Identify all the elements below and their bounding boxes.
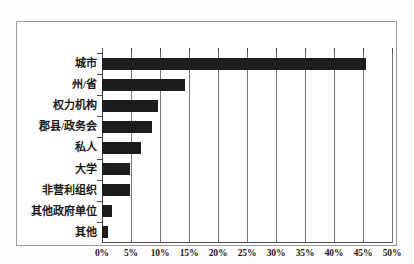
bar-row: 非营利组织 bbox=[102, 180, 392, 201]
category-label: 大学 bbox=[75, 160, 97, 179]
category-label: 非营利组织 bbox=[42, 181, 97, 200]
chart-frame: 城市州/省权力机构郡县/政务会私人大学非营利组织其他政府单位其他 0%5%10%… bbox=[16, 21, 397, 246]
bar bbox=[102, 163, 130, 175]
x-tick-label: 5% bbox=[124, 248, 138, 258]
bar-row: 大学 bbox=[102, 159, 392, 180]
bar bbox=[102, 58, 366, 70]
x-tick-label: 25% bbox=[238, 248, 256, 258]
bar bbox=[102, 142, 141, 154]
top-tick-50% bbox=[392, 48, 393, 53]
bar-row: 其他 bbox=[102, 222, 392, 243]
x-tick-label: 20% bbox=[209, 248, 227, 258]
bar bbox=[102, 205, 112, 217]
bar-row: 权力机构 bbox=[102, 95, 392, 116]
category-label: 其他政府单位 bbox=[31, 202, 97, 221]
bar bbox=[102, 121, 152, 133]
x-tick-label: 10% bbox=[151, 248, 169, 258]
category-label: 城市 bbox=[75, 54, 97, 73]
category-label: 权力机构 bbox=[53, 96, 97, 115]
x-axis-tick-labels: 0%5%10%15%20%25%30%35%40%45%50% bbox=[102, 248, 392, 264]
bar bbox=[102, 226, 108, 238]
x-tick-label: 45% bbox=[354, 248, 372, 258]
bar bbox=[102, 100, 158, 112]
x-tick-label: 35% bbox=[296, 248, 314, 258]
bar bbox=[102, 79, 185, 91]
bar-row: 城市 bbox=[102, 53, 392, 74]
plot-area: 城市州/省权力机构郡县/政务会私人大学非营利组织其他政府单位其他 bbox=[102, 53, 392, 243]
bar-row: 州/省 bbox=[102, 74, 392, 95]
category-label: 私人 bbox=[75, 138, 97, 157]
bar-row: 郡县/政务会 bbox=[102, 116, 392, 137]
x-tick-label: 50% bbox=[383, 248, 401, 258]
x-tick-label: 40% bbox=[325, 248, 343, 258]
x-tick-label: 0% bbox=[95, 248, 109, 258]
bar-row: 私人 bbox=[102, 137, 392, 158]
category-label: 其他 bbox=[75, 223, 97, 242]
gridline-50% bbox=[392, 53, 393, 243]
chart-container: 城市州/省权力机构郡县/政务会私人大学非营利组织其他政府单位其他 0%5%10%… bbox=[0, 0, 414, 264]
category-label: 郡县/政务会 bbox=[39, 117, 97, 136]
x-tick-label: 15% bbox=[180, 248, 198, 258]
bar-row: 其他政府单位 bbox=[102, 201, 392, 222]
bar bbox=[102, 184, 130, 196]
x-tick-label: 30% bbox=[267, 248, 285, 258]
category-label: 州/省 bbox=[72, 75, 97, 94]
x-axis-baseline bbox=[102, 242, 392, 243]
